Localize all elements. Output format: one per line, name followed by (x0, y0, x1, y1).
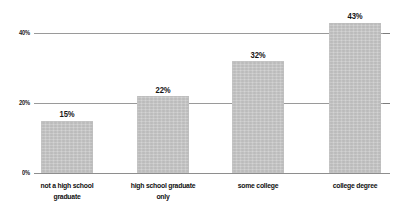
bar-high-school-graduate-only (137, 96, 189, 173)
bar-chart: 40% 20% 0% 15% 22% 32% 43% not a high sc… (0, 0, 404, 219)
x-axis-label-high-school-graduate-only: high school graduate only (114, 181, 213, 202)
x-axis-label-some-college: some college (209, 181, 308, 192)
axis-baseline-0 (34, 173, 390, 174)
y-axis-tick-label-40: 40% (4, 30, 30, 37)
bar-value-label-not-a-high-school-graduate: 15% (44, 110, 91, 119)
x-axis-label-college-degree: college degree (306, 181, 404, 192)
bar-value-label-high-school-graduate-only: 22% (140, 86, 187, 95)
bar-some-college (232, 61, 284, 173)
tick-stub-20 (383, 103, 390, 104)
y-axis-tick-label-0: 0% (4, 170, 30, 177)
tick-stub-40 (383, 33, 390, 34)
x-axis-label-not-a-high-school-graduate: not a high school graduate (18, 181, 117, 202)
bar-not-a-high-school-graduate (41, 121, 93, 174)
bar-college-degree (329, 23, 381, 174)
y-axis-tick-label-20: 20% (4, 100, 30, 107)
bar-value-label-college-degree: 43% (332, 12, 379, 21)
bar-value-label-some-college: 32% (235, 51, 282, 60)
